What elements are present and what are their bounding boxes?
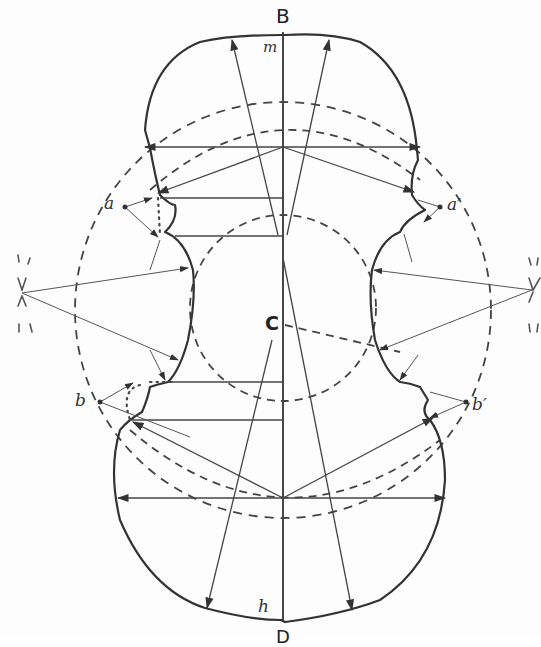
label-c-center: C xyxy=(265,314,279,333)
left-apex-ticks xyxy=(18,255,32,332)
label-h: h xyxy=(258,598,269,615)
label-b-lower: b xyxy=(75,392,86,409)
violin-outline xyxy=(114,34,445,622)
label-d-bottom: D xyxy=(276,628,290,646)
label-a-prime: a′ xyxy=(447,196,461,213)
right-apex-ticks xyxy=(529,258,540,332)
label-a: a xyxy=(104,195,114,212)
label-m: m xyxy=(263,40,277,55)
label-b-prime: b′ xyxy=(472,396,487,413)
horizontal-guides xyxy=(118,147,445,498)
label-b-top: B xyxy=(276,6,290,26)
